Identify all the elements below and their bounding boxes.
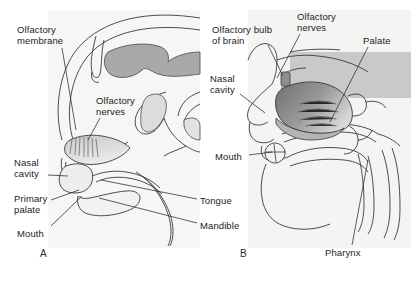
label-nasal-cavity-b: Nasal cavity bbox=[210, 74, 235, 95]
label-nasal-cavity: Nasal cavity bbox=[14, 158, 39, 179]
panel-a bbox=[48, 10, 200, 248]
label-olfactory-bulb-of-brain: Olfactory bulb of brain bbox=[212, 25, 272, 46]
panel-letter-a: A bbox=[40, 248, 47, 259]
label-olfactory-nerves-b: Olfactory nerves bbox=[297, 12, 336, 33]
label-primary-palate: Primary palate bbox=[14, 194, 47, 215]
label-olfactory-nerves: Olfactory nerves bbox=[96, 96, 135, 117]
label-tongue: Tongue bbox=[200, 196, 232, 207]
label-mouth-b: Mouth bbox=[215, 152, 242, 163]
label-mandible: Mandible bbox=[200, 221, 239, 232]
label-pharynx: Pharynx bbox=[325, 248, 361, 259]
label-mouth: Mouth bbox=[17, 229, 44, 240]
panel-letter-b: B bbox=[240, 248, 247, 259]
label-olfactory-membrane: Olfactory membrane bbox=[17, 25, 63, 46]
label-palate: Palate bbox=[363, 36, 391, 47]
